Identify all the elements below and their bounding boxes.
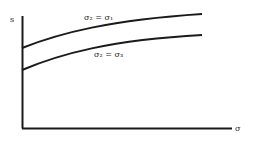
chart: s σ σ₂ = σ₁ σ₂ = σ₃ [0, 0, 258, 144]
x-axis-label: σ [235, 124, 241, 133]
upper-curve-label: σ₂ = σ₁ [84, 13, 113, 22]
lower-curve-label: σ₂ = σ₃ [94, 50, 123, 59]
y-axis-label: s [10, 15, 14, 24]
